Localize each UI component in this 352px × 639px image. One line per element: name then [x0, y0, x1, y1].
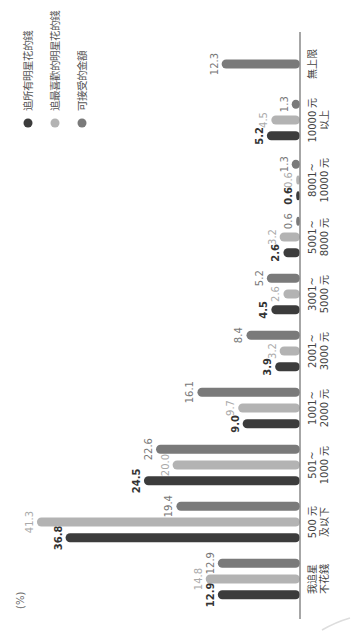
bar — [222, 60, 300, 69]
category-label: 501~ — [307, 451, 318, 478]
value-label: 3.2 — [267, 229, 278, 245]
value-label: 36.8 — [53, 525, 64, 550]
legend-label: 追所有明星花的錢 — [22, 30, 34, 111]
legend-label: 追最喜歡的明星花的錢 — [49, 10, 61, 111]
category-label: 10000 元 — [319, 158, 330, 203]
category-label: 我追星 — [306, 564, 318, 594]
value-label: 8.4 — [233, 327, 244, 343]
value-label: 1.3 — [279, 156, 290, 172]
value-label: 4.5 — [258, 301, 269, 319]
category-label: 以上 — [319, 110, 330, 130]
legend-swatch-icon — [24, 119, 33, 128]
value-label: 9.0 — [230, 415, 241, 433]
value-label: 12.9 — [205, 552, 216, 574]
category-label: 5000 元 — [319, 275, 330, 314]
value-label: 12.9 — [205, 582, 216, 607]
category-label: 8000 元 — [319, 218, 330, 257]
legend-swatch-icon — [78, 119, 87, 128]
value-label: 16.1 — [184, 381, 195, 403]
page-curl-decoration — [322, 618, 350, 630]
bar — [275, 362, 300, 371]
y-axis-unit-label: (%) — [15, 592, 26, 609]
bar — [283, 290, 300, 299]
value-label: 0.6 — [283, 172, 294, 188]
category-label: 10000 元 — [307, 98, 318, 143]
category-labels: 我追星不花錢500 元及以下501~1000 元1001~2000 元2001~… — [306, 49, 330, 594]
bar — [238, 404, 300, 413]
legend-label: 可接受的金額 — [76, 50, 88, 111]
category-label: 1001~ — [307, 391, 318, 425]
category-label: 500 元 — [307, 506, 318, 538]
value-label: 1.3 — [279, 96, 290, 112]
value-label: 2.6 — [270, 244, 281, 262]
bar — [267, 131, 300, 140]
value-label: 0.6 — [283, 187, 294, 205]
bar — [271, 116, 300, 125]
category-label: 無上限 — [306, 49, 318, 79]
category-label: 8001~ — [307, 163, 318, 197]
bar — [218, 559, 300, 568]
bar — [206, 575, 300, 584]
category-label: 5001~ — [307, 220, 318, 254]
category-label: 3001~ — [307, 277, 318, 311]
bar — [246, 331, 300, 340]
value-label: 22.6 — [143, 438, 154, 460]
bar — [156, 445, 300, 454]
bar — [176, 502, 300, 511]
legend-swatch-icon — [51, 119, 60, 128]
value-label: 14.8 — [193, 568, 204, 590]
bars-group: 12.914.812.936.841.319.424.520.022.69.09… — [24, 53, 300, 607]
bar — [292, 160, 300, 169]
bar — [144, 476, 300, 485]
bar — [280, 347, 300, 356]
category-label: 2001~ — [307, 334, 318, 368]
category-label: 3000 元 — [319, 332, 330, 371]
value-label: 5.2 — [254, 270, 265, 286]
bar — [197, 388, 300, 397]
bar — [66, 533, 300, 542]
bar — [173, 461, 300, 470]
category-label: 2000 元 — [319, 389, 330, 428]
value-label: 5.2 — [254, 127, 265, 145]
category-label: 1000 元 — [319, 446, 330, 485]
value-label: 41.3 — [24, 511, 35, 533]
value-label: 12.3 — [209, 53, 220, 75]
bar — [292, 100, 300, 109]
bar — [271, 305, 300, 314]
value-label: 24.5 — [131, 468, 142, 493]
bar-chart: (%) 追所有明星花的錢追最喜歡的明星花的錢可接受的金額 12.914.812.… — [0, 0, 352, 639]
value-label: 19.4 — [163, 495, 174, 517]
bar — [280, 233, 300, 242]
bar — [283, 248, 300, 257]
value-label: 2.6 — [270, 286, 281, 302]
bar — [218, 590, 300, 599]
category-label: 及以下 — [319, 507, 330, 537]
value-label: 3.9 — [262, 358, 273, 376]
category-label: 不花錢 — [318, 564, 330, 594]
value-label: 0.6 — [283, 213, 294, 229]
bar — [243, 419, 300, 428]
value-label: 4.5 — [258, 112, 269, 128]
value-label: 20.0 — [160, 454, 171, 476]
bar — [37, 518, 300, 527]
value-label: 9.7 — [225, 400, 236, 416]
value-label: 3.2 — [267, 343, 278, 359]
bar — [267, 274, 300, 283]
legend: 追所有明星花的錢追最喜歡的明星花的錢可接受的金額 — [22, 10, 88, 128]
